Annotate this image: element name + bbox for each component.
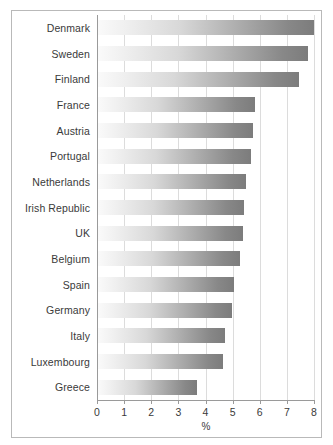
- bar-row: Finland: [12, 66, 323, 92]
- category-label: Austria: [12, 125, 98, 137]
- bar-cell: [98, 169, 323, 195]
- category-label: France: [12, 99, 98, 111]
- bar-row: Denmark: [12, 15, 323, 41]
- bar-row: Austria: [12, 118, 323, 144]
- bar: [98, 20, 314, 35]
- x-tick-label: 3: [175, 406, 181, 418]
- category-label: Portugal: [12, 150, 98, 162]
- tick-mark-5: [233, 400, 234, 404]
- bar-row: Belgium: [12, 246, 323, 272]
- x-tick-label: 6: [257, 406, 263, 418]
- chart-plot-area: DenmarkSwedenFinlandFranceAustriaPortuga…: [12, 11, 321, 437]
- x-tick-label: 0: [94, 406, 100, 418]
- category-label: Sweden: [12, 48, 98, 60]
- category-label: Belgium: [12, 253, 98, 265]
- category-label: Irish Republic: [12, 202, 98, 214]
- bar: [98, 328, 225, 343]
- x-axis-title: %: [97, 421, 315, 432]
- category-label: Finland: [12, 73, 98, 85]
- tick-mark-0: [97, 400, 98, 404]
- tick-mark-6: [260, 400, 261, 404]
- bar-row: UK: [12, 220, 323, 246]
- x-tick-label: 7: [284, 406, 290, 418]
- x-tick-label: 1: [121, 406, 127, 418]
- x-tick-label: 4: [203, 406, 209, 418]
- x-tick-label: 8: [311, 406, 317, 418]
- bar-rows: DenmarkSwedenFinlandFranceAustriaPortuga…: [12, 15, 323, 400]
- bar-cell: [98, 323, 323, 349]
- bar: [98, 303, 232, 318]
- bar: [98, 226, 243, 241]
- tick-mark-4: [206, 400, 207, 404]
- bar-cell: [98, 272, 323, 298]
- bar-row: Netherlands: [12, 169, 323, 195]
- bar-cell: [98, 92, 323, 118]
- bar-cell: [98, 220, 323, 246]
- y-axis-line: [97, 15, 98, 400]
- bar-row: France: [12, 92, 323, 118]
- bar-row: Germany: [12, 297, 323, 323]
- tick-mark-1: [124, 400, 125, 404]
- category-label: Greece: [12, 381, 98, 393]
- x-tick-label: 5: [230, 406, 236, 418]
- tick-mark-7: [287, 400, 288, 404]
- bar-cell: [98, 374, 323, 400]
- bar-cell: [98, 297, 323, 323]
- bar: [98, 174, 246, 189]
- bar-row: Sweden: [12, 41, 323, 67]
- bar-cell: [98, 246, 323, 272]
- bar-row: Irish Republic: [12, 195, 323, 221]
- bar-row: Italy: [12, 323, 323, 349]
- bar-cell: [98, 15, 323, 41]
- bar-row: Spain: [12, 272, 323, 298]
- bar-row: Portugal: [12, 143, 323, 169]
- bar-cell: [98, 66, 323, 92]
- bar: [98, 277, 234, 292]
- category-label: Italy: [12, 330, 98, 342]
- chart-figure: DenmarkSwedenFinlandFranceAustriaPortuga…: [11, 10, 322, 438]
- bar-cell: [98, 143, 323, 169]
- bar: [98, 200, 244, 215]
- bar: [98, 354, 223, 369]
- bar-cell: [98, 118, 323, 144]
- bar: [98, 72, 299, 87]
- bar-row: Luxembourg: [12, 349, 323, 375]
- category-label: Netherlands: [12, 176, 98, 188]
- tick-mark-2: [151, 400, 152, 404]
- category-label: Spain: [12, 279, 98, 291]
- tick-mark-3: [178, 400, 179, 404]
- bar-row: Greece: [12, 374, 323, 400]
- category-label: UK: [12, 227, 98, 239]
- bar: [98, 123, 253, 138]
- bar-cell: [98, 195, 323, 221]
- x-tick-label: 2: [148, 406, 154, 418]
- category-label: Luxembourg: [12, 356, 98, 368]
- bar: [98, 380, 197, 395]
- bar: [98, 46, 308, 61]
- category-label: Denmark: [12, 22, 98, 34]
- bar: [98, 251, 240, 266]
- tick-mark-8: [314, 400, 315, 404]
- bar: [98, 97, 255, 112]
- bar: [98, 149, 251, 164]
- bar-cell: [98, 41, 323, 67]
- bar-cell: [98, 349, 323, 375]
- category-label: Germany: [12, 304, 98, 316]
